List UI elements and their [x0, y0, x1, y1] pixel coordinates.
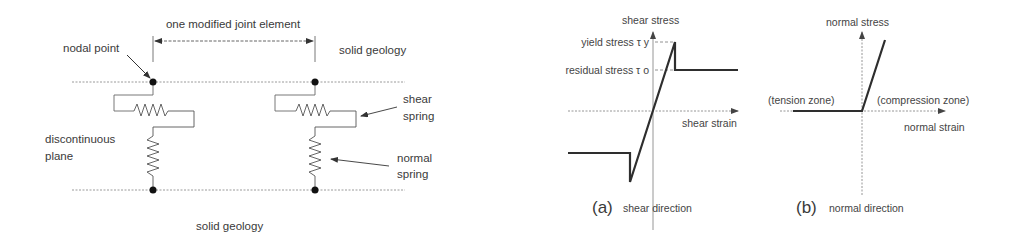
- nodal-point-pointer: [127, 55, 150, 78]
- shear-spring-bracket-left: [114, 82, 153, 111]
- joint-element-diagram: one modified joint element nodal point s…: [45, 18, 434, 232]
- normal-spring-right: [309, 136, 321, 190]
- panel-a-shear-chart: shear stress shear strain yield stress τ…: [565, 14, 738, 230]
- discontinuous-plane-label-line2: plane: [45, 150, 73, 162]
- panel-b-caption: normal direction: [829, 202, 904, 214]
- yield-stress-label: yield stress τ y: [581, 36, 649, 48]
- normal-strain-axis-label: normal strain: [904, 121, 965, 133]
- shear-spring-label-line1: shear: [403, 93, 432, 105]
- nodal-point-label: nodal point: [63, 42, 120, 54]
- solid-geology-bottom-label: solid geology: [196, 220, 263, 232]
- nodal-point-bottom-left: [150, 187, 157, 194]
- panel-b-tag: (b): [796, 198, 817, 217]
- shear-spring-right: [296, 104, 356, 136]
- normal-spring-left: [147, 136, 159, 190]
- element-label: one modified joint element: [166, 18, 301, 30]
- normal-stress-axis-label: normal stress: [826, 16, 889, 28]
- normal-spring-pointer: [331, 159, 389, 166]
- spring-assembly-right: [275, 79, 356, 194]
- shear-spring-pointer: [361, 107, 397, 116]
- nodal-point-top-right: [312, 79, 319, 86]
- normal-spring-label-line2: spring: [397, 168, 428, 180]
- shear-spring-left: [134, 104, 194, 136]
- panel-a-tag: (a): [592, 198, 613, 217]
- shear-stress-axis-label: shear stress: [622, 14, 679, 26]
- solid-geology-top-label: solid geology: [339, 44, 406, 56]
- normal-spring-label-line1: normal: [397, 152, 432, 164]
- panel-a-caption: shear direction: [623, 202, 692, 214]
- shear-spring-bracket-right: [275, 82, 315, 111]
- spring-assembly-left: [114, 79, 194, 194]
- shear-strain-axis-label: shear strain: [682, 117, 737, 129]
- nodal-point-bottom-right: [312, 187, 319, 194]
- residual-stress-label: residual stress τ o: [565, 64, 649, 76]
- nodal-point-top-left: [150, 79, 157, 86]
- compression-zone-label: (compression zone): [877, 94, 969, 106]
- tension-zone-label: (tension zone): [768, 94, 835, 106]
- figure-canvas: one modified joint element nodal point s…: [0, 0, 1020, 247]
- panel-b-normal-chart: normal stress normal strain (tension zon…: [768, 16, 969, 217]
- discontinuous-plane-label-line1: discontinuous: [45, 133, 116, 145]
- shear-spring-label-line2: spring: [403, 110, 434, 122]
